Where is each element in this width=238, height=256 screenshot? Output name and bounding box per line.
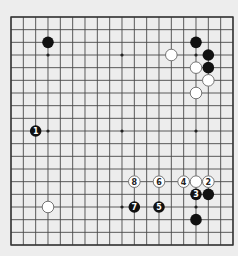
white-stone-move-8[interactable]: 8: [129, 176, 141, 188]
black-stone[interactable]: [190, 214, 202, 226]
move-number: 6: [156, 178, 162, 187]
white-stone-disc: [42, 201, 54, 213]
black-stone-disc: [190, 214, 202, 226]
star-point: [120, 205, 123, 208]
black-stone[interactable]: [203, 62, 215, 74]
move-number: 3: [193, 190, 199, 199]
white-stone[interactable]: [190, 87, 202, 99]
star-point: [120, 53, 123, 56]
go-board[interactable]: 18642375: [0, 0, 238, 256]
star-point: [194, 129, 197, 132]
move-number: 2: [206, 178, 212, 187]
white-stone-move-2[interactable]: 2: [203, 176, 215, 188]
white-stone-disc: [190, 62, 202, 74]
black-stone-disc: [42, 37, 54, 49]
white-stone[interactable]: [42, 201, 54, 213]
move-number: 8: [132, 178, 138, 187]
white-stone-move-4[interactable]: 4: [178, 176, 190, 188]
star-point: [46, 53, 49, 56]
white-stone-disc: [203, 75, 215, 87]
black-stone-move-5[interactable]: 5: [153, 201, 165, 213]
white-stone[interactable]: [166, 49, 178, 61]
white-stone-move-6[interactable]: 6: [153, 176, 165, 188]
black-stone[interactable]: [190, 37, 202, 49]
black-stone-disc: [203, 49, 215, 61]
move-number: 7: [132, 203, 138, 212]
white-stone[interactable]: [190, 62, 202, 74]
star-point: [46, 129, 49, 132]
white-stone-disc: [190, 87, 202, 99]
star-point: [120, 129, 123, 132]
black-stone-disc: [190, 37, 202, 49]
white-stone[interactable]: [190, 176, 202, 188]
star-point: [194, 53, 197, 56]
black-stone-disc: [203, 189, 215, 201]
move-number: 4: [181, 178, 187, 187]
move-number: 1: [33, 127, 39, 136]
black-stone[interactable]: [42, 37, 54, 49]
star-point: [194, 205, 197, 208]
black-stone-disc: [203, 62, 215, 74]
move-number: 5: [156, 203, 162, 212]
black-stone[interactable]: [203, 189, 215, 201]
black-stone-move-7[interactable]: 7: [129, 201, 141, 213]
black-stone-move-1[interactable]: 1: [30, 125, 42, 137]
white-stone-disc: [166, 49, 178, 61]
white-stone[interactable]: [203, 75, 215, 87]
black-stone[interactable]: [203, 49, 215, 61]
white-stone-disc: [190, 176, 202, 188]
black-stone-move-3[interactable]: 3: [190, 189, 202, 201]
